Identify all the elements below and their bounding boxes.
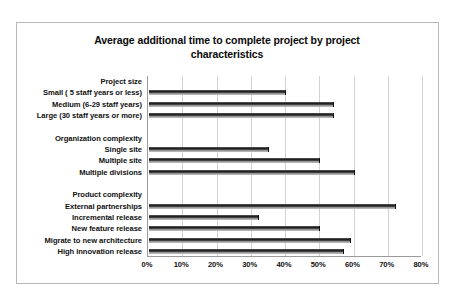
- bar-row: [149, 215, 423, 220]
- bar-row: [149, 249, 423, 254]
- bar: [149, 90, 286, 95]
- x-tick-label: 10%: [174, 260, 189, 269]
- x-axis-tick-labels: 0%10%20%30%40%50%60%70%80%: [147, 260, 437, 274]
- group-header-label: Product complexity: [18, 190, 142, 199]
- category-label: Migrate to new architecture: [18, 236, 142, 245]
- category-label: Single site: [18, 145, 142, 154]
- x-tick-label: 0%: [142, 260, 153, 269]
- category-label: Medium (6-29 staff years): [18, 100, 142, 109]
- bar: [149, 238, 351, 243]
- x-tick-label: 60%: [345, 260, 360, 269]
- category-label: Multiple site: [18, 156, 142, 165]
- bar-row: [149, 113, 423, 118]
- bar: [149, 204, 396, 209]
- bar: [149, 147, 269, 152]
- category-label: Large (30 staff years or more): [18, 111, 142, 120]
- category-label: New feature release: [18, 224, 142, 233]
- category-label: Small ( 5 staff years or less): [18, 88, 142, 97]
- bar: [149, 215, 259, 220]
- category-label: Incremental release: [18, 213, 142, 222]
- plot-area: [147, 76, 421, 257]
- category-label: Multiple divisions: [18, 168, 142, 177]
- group-header-label: Organization complexity: [18, 134, 142, 143]
- x-tick-label: 80%: [413, 260, 428, 269]
- x-tick-label: 30%: [242, 260, 257, 269]
- category-label: High innovation release: [18, 247, 142, 256]
- bar-row: [149, 147, 423, 152]
- bar: [149, 158, 320, 163]
- bar-row: [149, 226, 423, 231]
- bar: [149, 249, 344, 254]
- bar-row: [149, 102, 423, 107]
- bar: [149, 226, 320, 231]
- bar-row: [149, 238, 423, 243]
- bar-row: [149, 204, 423, 209]
- bar-row: [149, 170, 423, 175]
- group-header-label: Project size: [18, 77, 142, 86]
- x-tick-label: 40%: [276, 260, 291, 269]
- chart-frame: Average additional time to complete proj…: [16, 22, 439, 284]
- bar-row: [149, 90, 423, 95]
- bar-row: [149, 158, 423, 163]
- bar: [149, 113, 334, 118]
- bar: [149, 170, 355, 175]
- bar: [149, 102, 334, 107]
- x-tick-label: 50%: [311, 260, 326, 269]
- x-tick-label: 20%: [208, 260, 223, 269]
- category-label-column: Project sizeSmall ( 5 staff years or les…: [17, 76, 145, 257]
- chart-title: Average additional time to complete proj…: [57, 33, 397, 61]
- x-tick-label: 70%: [379, 260, 394, 269]
- category-label: External partnerships: [18, 202, 142, 211]
